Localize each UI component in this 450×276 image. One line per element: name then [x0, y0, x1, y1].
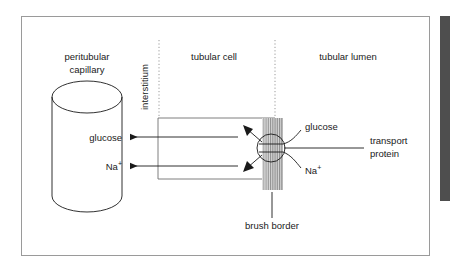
leader-sodium-right [283, 152, 301, 168]
sodium-label-left: Na+ [106, 160, 122, 172]
capillary-label-line2: capillary [70, 64, 105, 75]
sodium-label-right: Na+ [305, 164, 321, 176]
leader-glucose-right [283, 130, 301, 144]
figure-stage: peritubular capillary interstitium tubul… [0, 0, 450, 276]
capillary-label-line1: peritubular [65, 51, 110, 62]
sodium-label-left-base: Na [106, 161, 119, 172]
glucose-label-left: glucose [89, 132, 122, 143]
sodium-label-right-superscript: + [317, 164, 321, 171]
peritubular-capillary-cylinder [52, 81, 122, 212]
brush-border-label: brush border [245, 220, 299, 231]
sodium-label-right-base: Na [305, 165, 318, 176]
glucose-label-right: glucose [305, 121, 338, 132]
sodium-label-left-superscript: + [118, 160, 122, 167]
transport-protein-label-line2: protein [370, 148, 399, 159]
brush-border-band [262, 118, 283, 190]
arrow-sodium-exit-transporter [243, 155, 262, 172]
tubular-cell-label: tubular cell [191, 51, 237, 62]
kidney-transport-diagram: peritubular capillary interstitium tubul… [0, 0, 450, 276]
tubular-lumen-label: tubular lumen [319, 51, 377, 62]
arrow-glucose-exit-transporter [243, 125, 262, 142]
transport-protein-label-line1: transport [370, 135, 408, 146]
interstitium-label: interstitium [139, 64, 150, 110]
